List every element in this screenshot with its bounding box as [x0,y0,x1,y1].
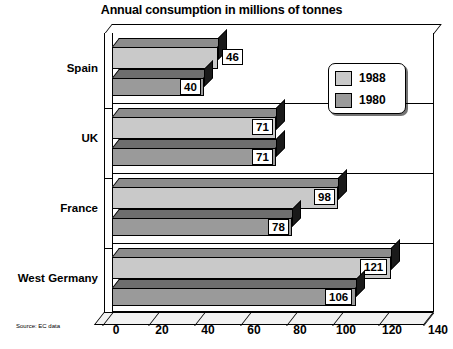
x-tick-label: 140 [423,323,453,337]
bar-top-face [112,38,225,47]
bar-face [112,47,218,69]
bar-face [112,257,391,279]
category-label-west-germany: West Germany [0,272,98,284]
category-separator-side [104,108,113,109]
value-label-spain-1988: 46 [222,49,243,65]
value-label-france-1980: 78 [268,219,289,235]
category-label-uk: UK [0,132,98,144]
category-separator [112,173,434,174]
bar-france-1988[interactable] [112,187,338,209]
bar-top-face [112,209,299,218]
x-tick-label: 60 [239,323,269,337]
bar-top-face [112,178,345,187]
legend-label-1988: 1988 [359,71,386,85]
chart-legend: 1988 1980 [328,63,406,114]
bar-west-germany-1980[interactable] [112,288,356,306]
category-separator-side [104,248,113,249]
legend-label-1980: 1980 [359,93,386,107]
legend-swatch-1988-icon [335,71,352,86]
value-label-west-germany-1980: 106 [325,289,352,305]
bar-france-1980[interactable] [112,218,292,236]
bar-face [112,218,292,236]
bar-top-face [112,279,363,288]
bar-top-face [112,139,283,148]
legend-item-1980[interactable]: 1980 [335,91,386,109]
x-tick-label: 100 [331,323,361,337]
bar-top-face [112,69,211,78]
chart-title: Annual consumption in millions of tonnes [0,3,443,17]
legend-item-1988[interactable]: 1988 [335,69,386,87]
x-axis: 0 20 40 60 80 100 120 140 [104,320,444,342]
category-label-spain: Spain [0,62,98,74]
x-tick-label: 120 [377,323,407,337]
bar-face [112,288,356,306]
x-tick-label: 80 [285,323,315,337]
x-tick-label: 20 [147,323,177,337]
category-separator-side [104,178,113,179]
x-tick-label: 0 [101,323,131,337]
bar-top-face [112,248,398,257]
bar-face [112,187,338,209]
bar-west-germany-1988[interactable] [112,257,391,279]
category-label-france: France [0,202,98,214]
value-label-uk-1988: 71 [252,119,273,135]
value-label-spain-1980: 40 [180,79,201,95]
bar-spain-1988[interactable] [112,47,218,69]
value-label-france-1988: 98 [314,189,335,205]
value-label-uk-1980: 71 [252,149,273,165]
bar-top-face [112,108,283,117]
legend-swatch-1980-icon [335,93,352,108]
source-note: Source: EC data [16,323,60,329]
x-tick-label: 40 [193,323,223,337]
category-separator [112,243,434,244]
